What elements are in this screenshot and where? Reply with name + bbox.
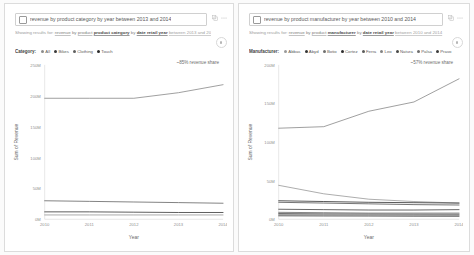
y-axis-tick-label: 100M <box>264 140 275 145</box>
x-axis-tick-label: 2013 <box>409 222 419 227</box>
legend-swatch <box>341 50 344 53</box>
y-axis-tick-label: 250M <box>30 63 41 68</box>
query-input-category[interactable]: revenue by product category by year betw… <box>15 13 207 26</box>
question-box-icon <box>19 16 27 24</box>
legend-manufacturer: Manufacturer: Abbas Abyd Botio Cortez Fe… <box>249 47 455 56</box>
legend-swatch <box>380 50 383 53</box>
legend-item[interactable]: Abbas <box>284 49 300 54</box>
annotation-revenue-share: ~85% revenue share <box>176 60 219 65</box>
token-revenue[interactable]: revenue <box>289 30 305 35</box>
y-axis-tick-label: 150M <box>30 125 41 130</box>
legend-label: Abyd <box>309 49 319 54</box>
x-axis-tick-label: 2010 <box>274 222 284 227</box>
token-date-retail-year[interactable]: date retail year <box>363 30 394 35</box>
token-product[interactable]: product <box>78 30 93 35</box>
legend-swatch <box>41 50 44 53</box>
y-axis-tick-label: 200M <box>264 63 275 68</box>
showing-results-lead: Showing results for: <box>249 30 288 35</box>
data-series-line[interactable] <box>279 213 459 214</box>
legend-swatch <box>362 50 365 53</box>
x-axis-tick-label: 2014 <box>454 222 463 227</box>
data-series-line[interactable] <box>45 201 223 203</box>
x-axis-tick-label: 2014 <box>218 222 227 227</box>
legend-label: Bikes <box>58 49 69 54</box>
token-product[interactable]: product <box>312 30 327 35</box>
legend-swatch <box>97 50 100 53</box>
legend-item[interactable]: All <box>41 49 50 54</box>
legend-item[interactable]: Botio <box>323 49 337 54</box>
y-axis-tick-label: 150M <box>264 102 275 107</box>
legend-title: Manufacturer: <box>249 49 279 54</box>
query-toolbar-manufacturer <box>448 15 463 21</box>
copy-visual-icon[interactable] <box>448 15 454 21</box>
legend-item[interactable]: Ferra <box>362 49 377 54</box>
x-axis-tick-label: 2012 <box>129 222 139 227</box>
y-axis-tick-label: 50M <box>267 179 276 184</box>
token-by-2: by <box>131 30 136 35</box>
token-by-1: by <box>72 30 77 35</box>
question-box-icon <box>253 16 261 24</box>
query-text: revenue by product category by year betw… <box>30 16 171 23</box>
line-chart-svg[interactable]: 0M50M100M150M200M20102011201220132014Yea… <box>245 59 463 245</box>
x-axis-title: Year <box>364 235 374 240</box>
query-toolbar-category <box>212 15 227 21</box>
data-series-line[interactable] <box>279 185 459 203</box>
legend-swatch <box>284 50 287 53</box>
data-series-line[interactable] <box>45 212 223 213</box>
legend-item[interactable]: Clothing <box>73 49 93 54</box>
token-date-range[interactable]: between 2013 and 2014 <box>169 30 211 35</box>
legend-swatch <box>417 50 420 53</box>
y-axis-tick-label: 50M <box>33 186 42 191</box>
legend-swatch <box>305 50 308 53</box>
data-series-line[interactable] <box>279 212 459 213</box>
legend-label: Natura <box>400 49 413 54</box>
legend-title: Category: <box>15 49 36 54</box>
data-series-line[interactable] <box>279 79 459 128</box>
x-axis-tick-label: 2011 <box>319 222 329 227</box>
legend-item[interactable]: Natura <box>396 49 413 54</box>
more-options-icon[interactable] <box>221 15 227 21</box>
legend-label: All <box>45 49 50 54</box>
copy-visual-icon[interactable] <box>212 15 218 21</box>
showing-results-lead: Showing results for: <box>15 30 54 35</box>
legend-label: Palsa <box>421 49 432 54</box>
annotation-revenue-share: ~57% revenue share <box>410 60 453 65</box>
legend-swatch <box>323 50 326 53</box>
chart-category: ~85% revenue share 0M50M100M150M200M250M… <box>11 59 227 245</box>
legend-category: Category: All Bikes Clothing Touch <box>15 47 219 56</box>
token-date-range[interactable]: between 2010 and 2014 <box>395 30 442 35</box>
token-manufacturer[interactable]: manufacturer <box>328 30 356 35</box>
data-series-line[interactable] <box>45 85 223 99</box>
query-input-manufacturer[interactable]: revenue by product manufacturer by year … <box>249 13 443 26</box>
legend-item[interactable]: Pravo <box>436 49 452 54</box>
legend-item[interactable]: Bikes <box>54 49 69 54</box>
y-axis-tick-label: 100M <box>30 156 41 161</box>
panel-product-manufacturer: revenue by product manufacturer by year … <box>238 3 470 252</box>
x-axis-tick-label: 2010 <box>40 222 50 227</box>
legend-label: Botio <box>327 49 337 54</box>
legend-item[interactable]: Cortez <box>341 49 358 54</box>
token-by-1: by <box>306 30 311 35</box>
y-axis-title: Sum of Revenue <box>248 123 253 160</box>
legend-item[interactable]: Abyd <box>305 49 319 54</box>
y-axis-tick-label: 200M <box>30 94 41 99</box>
token-product-category[interactable]: product category <box>94 30 130 35</box>
line-chart-svg[interactable]: 0M50M100M150M200M250M2010201120122013201… <box>11 59 227 245</box>
legend-label: Pravo <box>440 49 451 54</box>
x-axis-tick-label: 2013 <box>174 222 184 227</box>
legend-item[interactable]: Palsa <box>417 49 432 54</box>
legend-swatch <box>73 50 76 53</box>
legend-item[interactable]: Touch <box>97 49 113 54</box>
more-options-icon[interactable] <box>457 15 463 21</box>
y-axis-title: Sum of Revenue <box>14 123 19 160</box>
query-text: revenue by product manufacturer by year … <box>264 16 416 23</box>
token-revenue[interactable]: revenue <box>55 30 71 35</box>
data-series-line[interactable] <box>279 209 459 210</box>
legend-label: Touch <box>101 49 112 54</box>
x-axis-tick-label: 2012 <box>364 222 374 227</box>
legend-item[interactable]: Leo <box>380 49 391 54</box>
data-series-line[interactable] <box>279 215 459 216</box>
token-by-2: by <box>357 30 362 35</box>
token-date-retail-year[interactable]: date retail year <box>137 30 168 35</box>
chart-manufacturer: ~57% revenue share 0M50M100M150M200M2010… <box>245 59 463 245</box>
